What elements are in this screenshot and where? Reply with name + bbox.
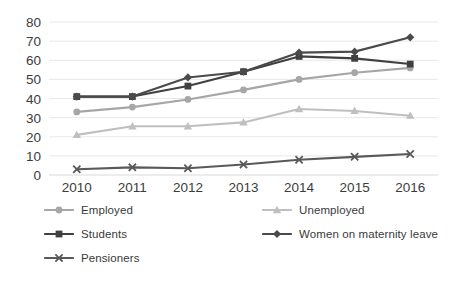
legend-key-icon — [262, 203, 292, 217]
legend-key-icon — [44, 203, 74, 217]
legend-item-pensioners[interactable]: Pensioners — [44, 246, 140, 270]
legend-item-unemployed[interactable]: Unemployed — [262, 198, 438, 222]
data-point-marker-square — [351, 55, 358, 62]
legend-column-left: EmployedStudentsPensioners — [44, 198, 140, 270]
data-point-marker-circle — [129, 104, 136, 111]
x-axis-tick-label: 2013 — [228, 180, 258, 195]
series-pensioners — [73, 150, 414, 173]
y-axis-tick-label: 10 — [26, 149, 41, 164]
data-point-marker-square — [56, 231, 63, 238]
legend-key-icon — [262, 227, 292, 241]
plot-svg: 0102030405060708020102011201220132014201… — [0, 0, 449, 196]
x-axis-tick-label: 2012 — [173, 180, 203, 195]
square-marker-icon — [44, 227, 74, 241]
circle-marker-icon — [44, 203, 74, 217]
x-marker-icon — [44, 251, 74, 265]
legend-item-label: Employed — [81, 204, 133, 216]
x-axis-tick-label: 2015 — [340, 180, 370, 195]
y-axis-tick-label: 0 — [33, 168, 41, 183]
legend-item-label: Women on maternity leave — [299, 228, 438, 240]
data-point-marker-circle — [351, 69, 358, 76]
data-point-marker-square — [185, 83, 192, 90]
legend-item-label: Students — [81, 228, 127, 240]
y-axis-tick-label: 40 — [26, 92, 41, 107]
data-point-marker-circle — [240, 86, 247, 93]
y-axis-tick-label: 20 — [26, 130, 41, 145]
data-point-marker-circle — [73, 108, 80, 115]
data-point-marker-circle — [56, 207, 63, 214]
y-axis-tick-label: 30 — [26, 111, 41, 126]
y-axis-tick-label: 50 — [26, 72, 41, 87]
x-axis-tick-label: 2011 — [118, 180, 147, 195]
data-point-marker-diamond — [406, 33, 414, 41]
legend-key-icon — [44, 227, 74, 241]
legend-item-label: Unemployed — [299, 204, 365, 216]
diamond-marker-icon — [262, 227, 292, 241]
data-point-marker-diamond — [273, 230, 281, 238]
legend-column-right: UnemployedWomen on maternity leave — [262, 198, 438, 246]
data-point-marker-square — [407, 61, 414, 68]
chart-legend: EmployedStudentsPensioners UnemployedWom… — [0, 198, 449, 282]
legend-item-students[interactable]: Students — [44, 222, 140, 246]
data-point-marker-circle — [296, 76, 303, 83]
legend-item-women-on-maternity-leave[interactable]: Women on maternity leave — [262, 222, 438, 246]
data-point-marker-diamond — [184, 73, 192, 81]
x-axis-tick-label: 2010 — [62, 180, 92, 195]
legend-key-icon — [44, 251, 74, 265]
line-chart: 0102030405060708020102011201220132014201… — [0, 0, 449, 282]
plot-area: 0102030405060708020102011201220132014201… — [0, 0, 449, 196]
series-unemployed — [73, 105, 415, 138]
data-point-marker-diamond — [351, 48, 359, 56]
x-axis-tick-label: 2014 — [284, 180, 315, 195]
data-point-marker-circle — [185, 96, 192, 103]
x-axis-tick-label: 2016 — [395, 180, 425, 195]
y-axis-tick-label: 60 — [26, 53, 41, 68]
legend-item-label: Pensioners — [81, 252, 140, 264]
triangle-marker-icon — [262, 203, 292, 217]
legend-item-employed[interactable]: Employed — [44, 198, 140, 222]
y-axis-tick-label: 70 — [26, 34, 41, 49]
y-axis-tick-label: 80 — [26, 15, 41, 30]
